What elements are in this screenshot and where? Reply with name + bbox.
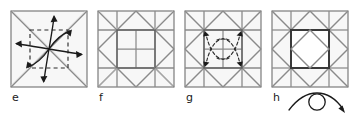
panel-label-g: g: [186, 92, 193, 103]
panel-label-e: e: [12, 92, 19, 103]
panel-f: [97, 10, 175, 88]
turn-over-circle: [309, 94, 325, 110]
turn-over-symbol: [286, 90, 348, 116]
panel-h: [271, 10, 349, 88]
panel-label-f: f: [99, 92, 103, 103]
figure-canvas: e f g h: [0, 0, 351, 120]
panel-label-h: h: [273, 92, 280, 103]
panel-e: [10, 10, 88, 88]
turn-over-arrowhead: [338, 106, 345, 113]
panel-g: [184, 10, 262, 88]
